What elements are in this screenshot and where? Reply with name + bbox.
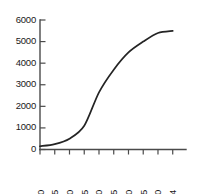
x-tick-label: 1975 bbox=[108, 190, 119, 194]
y-tick-label: 6000 bbox=[16, 14, 36, 25]
x-tick-label: 1965 bbox=[79, 190, 90, 194]
x-tick-label: 1980 bbox=[123, 190, 134, 194]
x-axis-tick-labels: 1950195519601965197019751980198519901994 bbox=[35, 190, 179, 194]
chart-canvas: 0100020003000400050006000 19501955196019… bbox=[0, 0, 198, 194]
x-tick-label: 1985 bbox=[138, 190, 149, 194]
x-axis-tick-marks bbox=[40, 150, 173, 155]
y-tick-label: 4000 bbox=[16, 57, 36, 68]
y-tick-label: 0 bbox=[31, 143, 36, 154]
x-tick-label: 1955 bbox=[49, 190, 60, 194]
line-chart: 0100020003000400050006000 19501955196019… bbox=[0, 0, 198, 194]
data-series-line bbox=[40, 31, 173, 146]
y-axis-tick-marks bbox=[40, 20, 46, 150]
x-tick-label: 1970 bbox=[93, 190, 104, 194]
x-tick-label: 1994 bbox=[167, 190, 178, 194]
x-tick-label: 1950 bbox=[35, 190, 46, 194]
y-tick-label: 2000 bbox=[16, 100, 36, 111]
x-tick-label: 1990 bbox=[152, 190, 163, 194]
y-tick-label: 5000 bbox=[16, 35, 36, 46]
y-axis-tick-labels: 0100020003000400050006000 bbox=[16, 14, 36, 155]
y-tick-label: 1000 bbox=[16, 121, 36, 132]
y-tick-label: 3000 bbox=[16, 78, 36, 89]
x-tick-label: 1960 bbox=[64, 190, 75, 194]
